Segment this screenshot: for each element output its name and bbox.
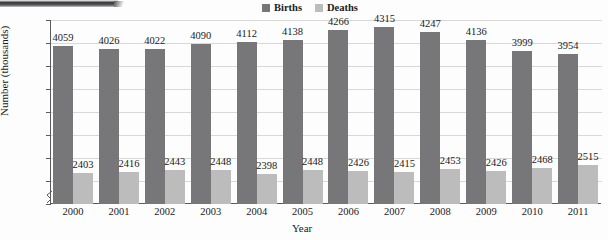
x-axis-tick-label: 2009 (463, 206, 509, 217)
bar-value-label: 3954 (558, 40, 579, 51)
legend-label-births: Births (274, 3, 302, 14)
bar-value-label: 4247 (420, 18, 441, 29)
bar-value-label: 2416 (118, 158, 139, 169)
bar-deaths-2011: 2515 (578, 165, 598, 204)
bar-births-2005: 4138 (283, 40, 303, 204)
bar-births-2008: 4247 (420, 32, 440, 204)
bar-group: 39992468 (509, 20, 555, 204)
bar-group: 42472453 (417, 20, 463, 204)
bar-value-label: 4266 (328, 16, 349, 27)
bar-deaths-2001: 2416 (119, 172, 139, 204)
legend-label-deaths: Deaths (327, 3, 358, 14)
x-axis-tick-label: 2002 (142, 206, 188, 217)
bar-value-label: 4090 (190, 30, 211, 41)
bar-value-label: 2453 (440, 155, 461, 166)
bar-group: 40222443 (142, 20, 188, 204)
x-axis-tick-label: 2007 (371, 206, 417, 217)
bar-group: 39542515 (555, 20, 601, 204)
bar-value-label: 2468 (532, 154, 553, 165)
bar-deaths-2009: 2426 (486, 171, 506, 204)
bar-value-label: 4136 (466, 26, 487, 37)
bar-deaths-2000: 2403 (73, 173, 93, 204)
bar-births-2000: 4059 (53, 46, 73, 204)
bar-deaths-2006: 2426 (348, 171, 368, 204)
bar-group: 40902448 (188, 20, 234, 204)
x-axis-tick-label: 2008 (417, 206, 463, 217)
bar-value-label: 2515 (578, 151, 599, 162)
bar-value-label: 2448 (210, 156, 231, 167)
bar-deaths-2003: 2448 (211, 170, 231, 204)
bar-births-2011: 3954 (558, 54, 578, 204)
bar-deaths-2005: 2448 (303, 170, 323, 204)
bar-deaths-2002: 2443 (165, 170, 185, 204)
bar-value-label: 4112 (236, 28, 257, 39)
chart-legend: Births Deaths (262, 3, 358, 14)
x-axis-tick-label: 2005 (280, 206, 326, 217)
bar-group: 42662426 (326, 20, 372, 204)
bar-value-label: 2398 (256, 160, 277, 171)
bar-value-label: 4059 (52, 32, 73, 43)
x-axis-tick-label: 2006 (326, 206, 372, 217)
x-axis-tick-label: 2000 (50, 206, 96, 217)
bar-value-label: 4026 (98, 35, 119, 46)
x-axis-title: Year (292, 222, 312, 234)
bar-value-label: 2448 (302, 156, 323, 167)
bar-births-2007: 4315 (374, 27, 394, 204)
x-axis-tick-labels: 2000200120022003200420052006200720082009… (50, 206, 601, 217)
y-axis-title: Number (thousands) (0, 26, 10, 116)
bar-group: 40262416 (96, 20, 142, 204)
bar-group: 41122398 (234, 20, 280, 204)
bar-deaths-2008: 2453 (440, 169, 460, 204)
bar-deaths-2004: 2398 (257, 174, 277, 205)
legend-swatch-deaths (315, 4, 323, 12)
bar-births-2004: 4112 (237, 42, 257, 204)
bar-deaths-2007: 2415 (394, 172, 414, 204)
bar-value-label: 4138 (282, 26, 303, 37)
bar-groups: 4059240340262416402224434090244841122398… (50, 20, 601, 204)
bar-births-2006: 4266 (328, 30, 348, 204)
bar-value-label: 2426 (486, 157, 507, 168)
scan-artifact-band (0, 0, 118, 7)
bar-value-label: 4022 (144, 35, 165, 46)
bar-value-label: 4315 (374, 13, 395, 24)
bar-value-label: 2426 (348, 157, 369, 168)
legend-item-deaths: Deaths (315, 3, 358, 14)
bar-value-label: 3999 (512, 37, 533, 48)
x-axis-tick-label: 2003 (188, 206, 234, 217)
chart-figure: Births Deaths Number (thousands) 2000230… (0, 0, 608, 240)
x-axis-tick-label: 2001 (96, 206, 142, 217)
bar-value-label: 2403 (72, 159, 93, 170)
bar-group: 41362426 (463, 20, 509, 204)
bar-group: 43152415 (371, 20, 417, 204)
bar-births-2002: 4022 (145, 49, 165, 204)
y-axis-tick (46, 204, 51, 205)
bar-births-2003: 4090 (191, 44, 211, 204)
bar-group: 41382448 (280, 20, 326, 204)
legend-item-births: Births (262, 3, 302, 14)
bar-group: 40592403 (50, 20, 96, 204)
bar-births-2010: 3999 (512, 51, 532, 204)
bar-deaths-2010: 2468 (532, 168, 552, 204)
bar-births-2001: 4026 (99, 49, 119, 204)
bar-value-label: 2443 (164, 156, 185, 167)
x-axis-tick-label: 2011 (555, 206, 601, 217)
bar-value-label: 2415 (394, 158, 415, 169)
x-axis-tick-label: 2010 (509, 206, 555, 217)
bar-births-2009: 4136 (466, 40, 486, 204)
legend-swatch-births (262, 4, 270, 12)
x-axis-tick-label: 2004 (234, 206, 280, 217)
